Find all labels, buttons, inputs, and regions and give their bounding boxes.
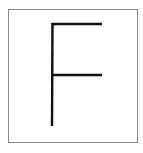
letter-f-glyph	[0, 0, 143, 153]
